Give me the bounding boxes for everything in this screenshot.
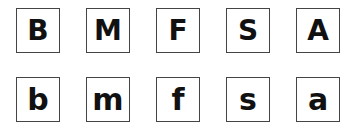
letter-card-m: m: [86, 77, 130, 122]
letter-card-M: M: [86, 8, 130, 53]
letter-card-A: A: [296, 8, 340, 53]
letter: b: [27, 85, 48, 115]
uppercase-row: B M F S A: [0, 8, 359, 55]
letter-card-b: b: [16, 77, 60, 122]
letter: f: [171, 85, 184, 115]
letter-card-s: s: [226, 77, 270, 122]
letter: A: [307, 17, 329, 45]
letter: m: [92, 85, 123, 115]
letter-card-F: F: [156, 8, 200, 53]
letter: B: [27, 17, 48, 45]
letter-card-a: a: [296, 77, 340, 122]
letter: S: [238, 17, 258, 45]
letter: F: [168, 17, 187, 45]
letter: a: [308, 85, 328, 115]
letter-card-B: B: [16, 8, 60, 53]
letter: s: [239, 85, 257, 115]
letter: M: [94, 17, 122, 45]
lowercase-row: b m f s a: [0, 77, 359, 124]
letter-card-S: S: [226, 8, 270, 53]
letter-card-f: f: [156, 77, 200, 122]
